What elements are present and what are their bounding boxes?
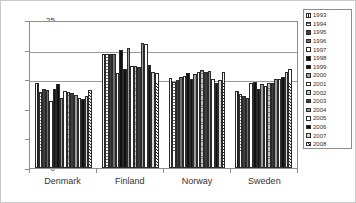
legend-item-label: 1999 (313, 64, 326, 70)
legend-item: 2008 (306, 140, 351, 149)
x-axis-tick-mark (230, 169, 231, 173)
legend-swatch-icon (306, 142, 311, 147)
legend-item-label: 2004 (313, 107, 326, 113)
legend-swatch-icon (306, 65, 311, 70)
legend-swatch-icon (306, 13, 311, 18)
legend-item-label: 1993 (313, 12, 326, 18)
legend-swatch-icon (306, 99, 311, 104)
legend-swatch-icon (306, 108, 311, 113)
legend-swatch-icon (306, 133, 311, 138)
legend-item-label: 2002 (313, 90, 326, 96)
legend-item-label: 2007 (313, 133, 326, 139)
bar-group (230, 22, 297, 168)
legend-item-label: 2008 (313, 141, 326, 147)
legend-swatch-icon (306, 73, 311, 78)
legend-swatch-icon (306, 39, 311, 44)
legend: 1993199419951996199719981999200020012002… (303, 9, 352, 149)
legend-item: 2004 (306, 106, 351, 115)
legend-item-label: 1998 (313, 55, 326, 61)
plot-area (29, 21, 298, 169)
legend-swatch-icon (306, 56, 311, 61)
legend-item-label: 1995 (313, 29, 326, 35)
legend-item-label: 2000 (313, 72, 326, 78)
x-axis-group-label: Sweden (231, 176, 298, 186)
legend-item: 2005 (306, 114, 351, 123)
bar (155, 73, 159, 168)
legend-item: 1996 (306, 37, 351, 46)
x-axis-group-label: Norway (164, 176, 231, 186)
legend-swatch-icon (306, 90, 311, 95)
legend-item: 2007 (306, 131, 351, 140)
bar (88, 90, 92, 168)
bar (222, 72, 226, 168)
legend-item-label: 2005 (313, 115, 326, 121)
chart-figure: 0510152025 DenmarkFinlandNorwaySweden 19… (0, 0, 356, 203)
x-axis-group-label: Finland (96, 176, 163, 186)
legend-item-label: 2003 (313, 98, 326, 104)
bar-group (30, 22, 97, 168)
bar-groups (30, 22, 297, 168)
legend-swatch-icon (306, 125, 311, 130)
bar-group (164, 22, 231, 168)
legend-item-label: 1996 (313, 38, 326, 44)
legend-item: 1999 (306, 63, 351, 72)
legend-item: 1998 (306, 54, 351, 63)
legend-swatch-icon (306, 47, 311, 52)
x-axis-tick-mark (29, 169, 30, 173)
x-axis-group-label: Denmark (29, 176, 96, 186)
legend-item-label: 2006 (313, 124, 326, 130)
legend-swatch-icon (306, 22, 311, 27)
legend-item: 1994 (306, 20, 351, 29)
legend-item-label: 1994 (313, 21, 326, 27)
legend-swatch-icon (306, 82, 311, 87)
x-axis-tick-mark (96, 169, 97, 173)
legend-swatch-icon (306, 30, 311, 35)
legend-item: 2000 (306, 71, 351, 80)
legend-item: 2006 (306, 123, 351, 132)
legend-item: 2003 (306, 97, 351, 106)
legend-item-label: 1997 (313, 47, 326, 53)
x-axis-tick-mark (163, 169, 164, 173)
bar-group (97, 22, 164, 168)
legend-item: 2001 (306, 80, 351, 89)
legend-item: 1993 (306, 11, 351, 20)
legend-swatch-icon (306, 116, 311, 121)
legend-item: 1997 (306, 45, 351, 54)
legend-item: 2002 (306, 88, 351, 97)
bar (288, 69, 292, 168)
legend-item: 1995 (306, 28, 351, 37)
legend-item-label: 2001 (313, 81, 326, 87)
x-axis-tick-mark (297, 169, 298, 173)
